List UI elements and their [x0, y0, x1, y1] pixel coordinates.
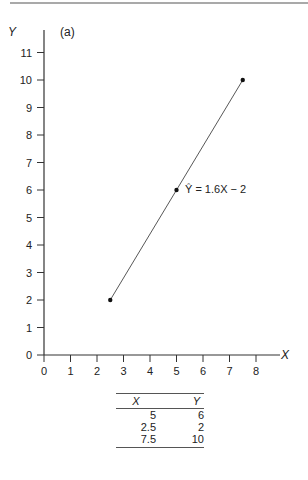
table-row: 5 6	[116, 409, 204, 422]
table-header-x: X	[116, 394, 156, 409]
y-tick-label: 1	[26, 322, 32, 334]
x-tick-label: 7	[226, 365, 232, 377]
equation-label: Ŷ = 1.6X − 2	[185, 183, 246, 195]
axes: 01234567891011012345678	[20, 30, 280, 377]
panel-label: (a)	[60, 25, 75, 39]
y-tick-label: 9	[26, 102, 32, 114]
y-tick-label: 0	[26, 349, 32, 361]
y-axis-title: Y	[8, 25, 17, 39]
y-tick-label: 3	[26, 267, 32, 279]
data-point	[174, 188, 178, 192]
table-header-y: Y	[156, 394, 204, 409]
y-tick-label: 4	[26, 239, 32, 251]
data-point	[241, 78, 245, 82]
data-point	[108, 298, 112, 302]
x-tick-label: 3	[120, 365, 126, 377]
y-tick-label: 8	[26, 129, 32, 141]
x-tick-label: 4	[147, 365, 153, 377]
data-table: X Y 5 6 2.5 2 7.5 10	[116, 393, 204, 448]
x-tick-label: 6	[200, 365, 206, 377]
x-axis-title: X	[280, 348, 290, 362]
table-row: 7.5 10	[116, 433, 204, 448]
x-tick-label: 2	[94, 365, 100, 377]
y-tick-label: 11	[21, 47, 32, 59]
x-tick-label: 1	[67, 365, 73, 377]
x-tick-label: 8	[253, 365, 259, 377]
x-tick-label: 5	[173, 365, 179, 377]
table-row: 2.5 2	[116, 421, 204, 433]
y-tick-label: 5	[26, 212, 32, 224]
y-tick-label: 7	[26, 157, 32, 169]
x-tick-label: 0	[41, 365, 47, 377]
y-tick-label: 10	[20, 74, 32, 86]
y-tick-label: 2	[26, 294, 32, 306]
y-tick-label: 6	[26, 184, 32, 196]
